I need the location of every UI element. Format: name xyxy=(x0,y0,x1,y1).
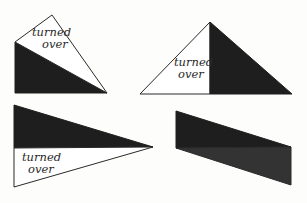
dark-triangle-lower xyxy=(176,147,291,185)
label-over: over xyxy=(178,67,205,81)
figure-top-left: turned over xyxy=(15,15,107,93)
dark-triangle xyxy=(14,105,153,148)
figure-bottom-right xyxy=(176,111,291,185)
label-over: over xyxy=(42,37,69,51)
figure-bottom-left: turned over xyxy=(14,105,153,187)
figure-top-right: turned over xyxy=(140,22,292,94)
dark-triangle xyxy=(210,22,292,94)
folding-diagram: turned over turned over turned over xyxy=(0,0,307,203)
label-over: over xyxy=(28,162,55,176)
dark-triangle-upper xyxy=(176,111,291,148)
